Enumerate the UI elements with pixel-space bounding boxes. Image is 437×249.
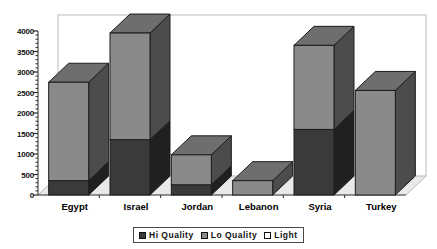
x-axis-tick-label: Syria [308,201,331,212]
x-axis-tick-label: Lebanon [239,201,279,212]
legend-label: Light [274,230,297,240]
legend-swatch-icon [139,232,146,239]
legend-swatch-icon [201,232,208,239]
chart-legend: Hi QualityLo QualityLight [133,227,304,243]
legend-label: Hi Quality [149,230,194,240]
legend-item: Lo Quality [201,230,258,240]
x-axis-tick-label: Jordan [181,201,213,212]
chart-container: 05001000150020002500300035004000 EgyptIs… [0,0,437,249]
x-axis-tick-label: Turkey [366,201,396,212]
x-axis-tick-label: Egypt [61,201,87,212]
x-axis-label-group: EgyptIsraelJordanLebanonSyriaTurkey [0,0,437,249]
legend-swatch-icon [264,232,271,239]
legend-item: Light [264,230,297,240]
legend-item: Hi Quality [139,230,194,240]
x-axis-tick-label: Israel [124,201,149,212]
legend-label: Lo Quality [211,230,258,240]
